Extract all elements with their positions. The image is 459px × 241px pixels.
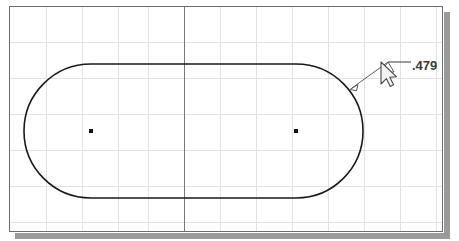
radius-dimension-value[interactable]: .479 [412, 58, 437, 73]
cad-drawing-canvas[interactable] [9, 6, 443, 232]
window-shadow-right [444, 12, 450, 238]
window-shadow-bottom [15, 233, 450, 239]
